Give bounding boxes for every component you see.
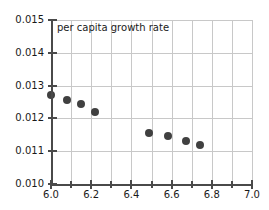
x-axis-tick-label: 6.4 <box>123 190 139 200</box>
y-axis-tick-mark <box>48 19 57 21</box>
data-point <box>164 132 172 140</box>
x-axis-tick-mark-major <box>50 180 52 189</box>
gridline-vertical <box>232 20 233 184</box>
gridline-vertical <box>192 20 193 184</box>
gridline-horizontal <box>51 20 252 21</box>
data-point <box>196 141 204 149</box>
x-axis-tick-mark-minor <box>191 181 193 188</box>
x-axis-tick-mark-minor <box>151 181 153 188</box>
y-axis-tick-label: 0.011 <box>15 146 44 156</box>
gridline-horizontal <box>51 53 252 54</box>
x-axis-tick-label: 6.6 <box>164 190 180 200</box>
gridline-vertical <box>71 20 72 184</box>
x-axis-tick-label: 6.2 <box>83 190 99 200</box>
gridline-vertical <box>111 20 112 184</box>
data-point <box>182 137 190 145</box>
gridline-horizontal <box>51 86 252 87</box>
x-axis-tick-label: 6.8 <box>204 190 220 200</box>
y-axis-tick-mark <box>48 117 57 119</box>
data-point <box>91 108 99 116</box>
chart-figure: 0.0100.0110.0120.0130.0140.015 6.06.26.4… <box>0 0 269 210</box>
y-axis-tick-label: 0.012 <box>15 113 44 123</box>
x-axis-tick-mark-major <box>251 180 253 189</box>
x-axis-tick-label: 7.0 <box>244 190 260 200</box>
gridline-vertical <box>152 20 153 184</box>
gridline-vertical <box>212 20 213 184</box>
x-axis-tick-mark-minor <box>70 181 72 188</box>
x-axis-tick-mark-major <box>171 180 173 189</box>
gridline-horizontal <box>51 151 252 152</box>
gridline-vertical <box>252 20 253 184</box>
y-axis-line <box>51 20 53 185</box>
y-axis-tick-label: 0.015 <box>15 15 44 25</box>
gridline-vertical <box>91 20 92 184</box>
gridline-vertical <box>172 20 173 184</box>
y-axis-tick-mark <box>48 52 57 54</box>
y-axis-tick-label: 0.010 <box>15 179 44 189</box>
data-point <box>77 100 85 108</box>
gridline-vertical <box>131 20 132 184</box>
data-point <box>63 96 71 104</box>
x-axis-tick-mark-major <box>130 180 132 189</box>
x-axis-tick-mark-minor <box>110 181 112 188</box>
gridline-horizontal <box>51 118 252 119</box>
chart-title: per capita growth rate <box>57 22 169 34</box>
y-axis-tick-label: 0.013 <box>15 81 44 91</box>
x-axis-tick-mark-major <box>90 180 92 189</box>
y-axis-tick-label: 0.014 <box>15 48 44 58</box>
plot-area <box>51 20 252 184</box>
y-axis-tick-mark <box>48 85 57 87</box>
x-axis-tick-label: 6.0 <box>43 190 59 200</box>
x-axis-tick-mark-minor <box>231 181 233 188</box>
x-axis-tick-mark-major <box>211 180 213 189</box>
y-axis-tick-mark <box>48 150 57 152</box>
